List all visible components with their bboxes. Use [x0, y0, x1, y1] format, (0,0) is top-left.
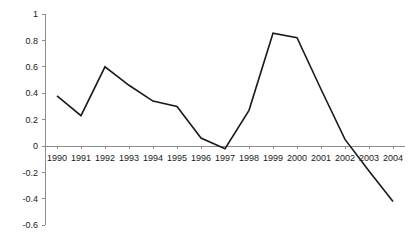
x-axis-tick-label: 1991: [71, 153, 91, 163]
chart-canvas: 10.80.60.40.20-0.2-0.4-0.6 1990199119921…: [0, 0, 411, 246]
x-axis-tick-label: 1995: [167, 153, 187, 163]
x-axis-tick-label: 2002: [335, 153, 355, 163]
x-axis-tick-label: 1998: [239, 153, 259, 163]
data-series: [57, 33, 393, 201]
x-axis-tick-label: 1990: [47, 153, 67, 163]
y-axis-tick-label: 0.6: [25, 62, 38, 72]
line-chart: 10.80.60.40.20-0.2-0.4-0.6 1990199119921…: [0, 0, 411, 246]
x-axis-tick-label: 1992: [95, 153, 115, 163]
y-axis-tick-label: -0.6: [22, 220, 38, 230]
y-axis-tick-label: 1: [33, 9, 38, 19]
x-axis-tick-label: 2001: [311, 153, 331, 163]
x-axis-tick-label: 2000: [287, 153, 307, 163]
y-axis-tick-label: 0.8: [25, 36, 38, 46]
x-axis-tick-label: 1997: [215, 153, 235, 163]
y-axis-tick-label: 0.2: [25, 115, 38, 125]
y-axis-tick-label: -0.2: [22, 168, 38, 178]
x-axis-tick-label: 1994: [143, 153, 163, 163]
x-axis-tick-label: 1999: [263, 153, 283, 163]
x-axis-tick-label: 1996: [191, 153, 211, 163]
y-axis-tick-label: -0.4: [22, 194, 38, 204]
y-axis-tick-label: 0: [33, 141, 38, 151]
x-axis-tick-label: 2004: [383, 153, 403, 163]
x-axis-tick-label: 1993: [119, 153, 139, 163]
series-line: [57, 33, 393, 201]
y-axis-tick-label: 0.4: [25, 88, 38, 98]
y-axis: 10.80.60.40.20-0.2-0.4-0.6: [22, 9, 45, 230]
